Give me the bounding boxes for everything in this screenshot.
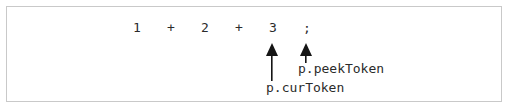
expression-token-plus-1: + [163,21,179,34]
arrow-up-icon-peek-token [295,43,317,63]
diagram-frame: 1 + 2 + 3 ; p.curToken p.peekToken [6,6,502,102]
label-cur-token: p.curToken [266,81,344,95]
expression-token-plus-2: + [231,21,247,34]
expression-token-3: 3 [265,21,281,34]
expression-token-semicolon: ; [299,21,315,34]
label-peek-token: p.peekToken [298,62,384,76]
expression-token-1: 1 [129,21,145,34]
diagram-canvas: 1 + 2 + 3 ; p.curToken p.peekToken [0,0,510,109]
arrow-up-icon-cur-token [261,43,283,81]
expression-token-2: 2 [197,21,213,34]
